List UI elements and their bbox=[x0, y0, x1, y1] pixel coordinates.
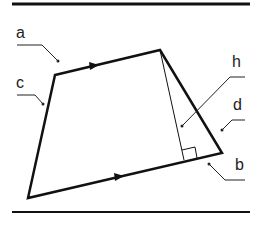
trapezoid-shape bbox=[28, 50, 222, 198]
trapezoid-diagram: a c h d b bbox=[0, 0, 261, 230]
leader-a bbox=[17, 45, 60, 63]
label-b: b bbox=[235, 156, 244, 173]
right-angle-marker bbox=[182, 147, 197, 158]
leader-c bbox=[17, 95, 45, 106]
label-d: d bbox=[233, 96, 242, 113]
label-c: c bbox=[16, 74, 24, 91]
leader-d bbox=[221, 120, 246, 132]
height-line bbox=[160, 50, 184, 160]
label-h: h bbox=[232, 53, 241, 70]
label-a: a bbox=[16, 24, 25, 41]
